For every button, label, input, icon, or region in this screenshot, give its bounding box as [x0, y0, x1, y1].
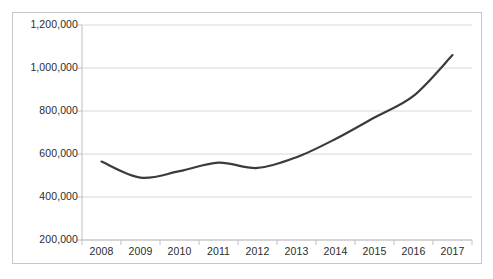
x-axis-tick-label: 2013	[277, 246, 316, 257]
x-axis-tick-label: 2017	[433, 246, 472, 257]
x-axis-tick-label: 2009	[121, 246, 160, 257]
gridlines-group	[82, 25, 472, 240]
x-axis-tick-label: 2016	[394, 246, 433, 257]
y-axis-tick-label: 1,200,000	[6, 19, 78, 30]
y-axis-tick-labels: 200,000400,000600,000800,0001,000,0001,2…	[0, 0, 78, 279]
data-series-line	[102, 55, 453, 178]
y-axis-tick-label: 600,000	[6, 148, 78, 159]
y-axis-tick-label: 400,000	[6, 191, 78, 202]
x-axis-tick-label: 2014	[316, 246, 355, 257]
x-axis-tick-label: 2010	[160, 246, 199, 257]
y-axis-tick-label: 800,000	[6, 105, 78, 116]
x-axis-tick-labels: 2008200920102011201220132014201520162017	[0, 246, 493, 266]
y-axis-tick-label: 200,000	[6, 234, 78, 245]
x-axis-tick-label: 2011	[199, 246, 238, 257]
x-axis-tick-label: 2008	[82, 246, 121, 257]
axis-lines-group	[82, 25, 472, 240]
y-axis-tick-label: 1,000,000	[6, 62, 78, 73]
x-axis-tick-label: 2012	[238, 246, 277, 257]
x-axis-tick-label: 2015	[355, 246, 394, 257]
